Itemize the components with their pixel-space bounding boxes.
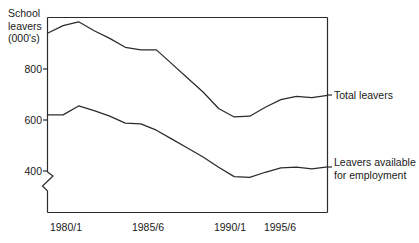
y-axis-break-zigzag [43,172,54,196]
plot-area [0,0,419,243]
series-label-tick-marks [328,95,333,167]
line-total-leavers [48,22,328,117]
axis-frame [48,18,328,213]
y-tick-marks [43,69,48,171]
school-leavers-line-chart: School leavers (000's) 800 600 400 1980/… [0,0,419,243]
line-leavers-available-for-employment [48,106,328,177]
